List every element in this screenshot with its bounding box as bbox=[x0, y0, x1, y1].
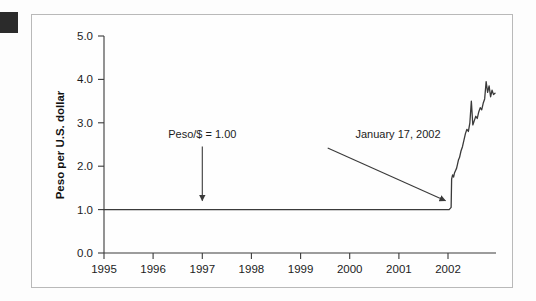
y-tick-label-0: 0.0 bbox=[77, 247, 93, 259]
y-tick-label-4: 4.0 bbox=[77, 73, 93, 85]
peg-annotation-label: Peso/$ = 1.00 bbox=[168, 128, 236, 140]
y-tick-label-5: 5.0 bbox=[77, 30, 93, 42]
y-tick-label-3: 3.0 bbox=[77, 117, 93, 129]
data-series-line bbox=[104, 82, 495, 210]
devaluation-annotation-arrow bbox=[328, 148, 446, 201]
devaluation-annotation-label: January 17, 2002 bbox=[355, 128, 440, 140]
x-tick-label-1999: 1999 bbox=[288, 263, 314, 275]
exchange-rate-chart: 0.0 1.0 2.0 3.0 4.0 5.0 1995 1996 1997 1… bbox=[0, 0, 536, 301]
x-tick-label-1995: 1995 bbox=[91, 263, 117, 275]
x-tick-label-1996: 1996 bbox=[140, 263, 166, 275]
y-tick-label-2: 2.0 bbox=[77, 160, 93, 172]
x-tick-label-2001: 2001 bbox=[386, 263, 412, 275]
x-tick-label-2000: 2000 bbox=[337, 263, 363, 275]
x-tick-marks bbox=[104, 253, 448, 259]
figure-container: 0.0 1.0 2.0 3.0 4.0 5.0 1995 1996 1997 1… bbox=[0, 0, 536, 301]
y-tick-marks bbox=[98, 36, 104, 253]
x-tick-label-1998: 1998 bbox=[239, 263, 265, 275]
x-tick-label-1997: 1997 bbox=[190, 263, 216, 275]
x-tick-label-2002: 2002 bbox=[435, 263, 461, 275]
y-axis-title: Peso per U.S. dollar bbox=[54, 90, 66, 199]
y-tick-label-1: 1.0 bbox=[77, 204, 93, 216]
